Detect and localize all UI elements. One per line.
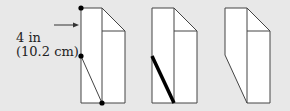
measurement-cm: (10.2 cm) <box>16 45 79 59</box>
dot-middle <box>78 53 83 58</box>
measurement-inches: 4 in <box>16 31 79 45</box>
panel-step-3 <box>225 8 270 103</box>
measurement-label: 4 in (10.2 cm) <box>16 31 79 59</box>
panel-step-2 <box>152 8 197 103</box>
dot-bottom <box>99 100 104 105</box>
diagram: 4 in (10.2 cm) <box>0 0 290 111</box>
dot-top <box>78 5 83 10</box>
